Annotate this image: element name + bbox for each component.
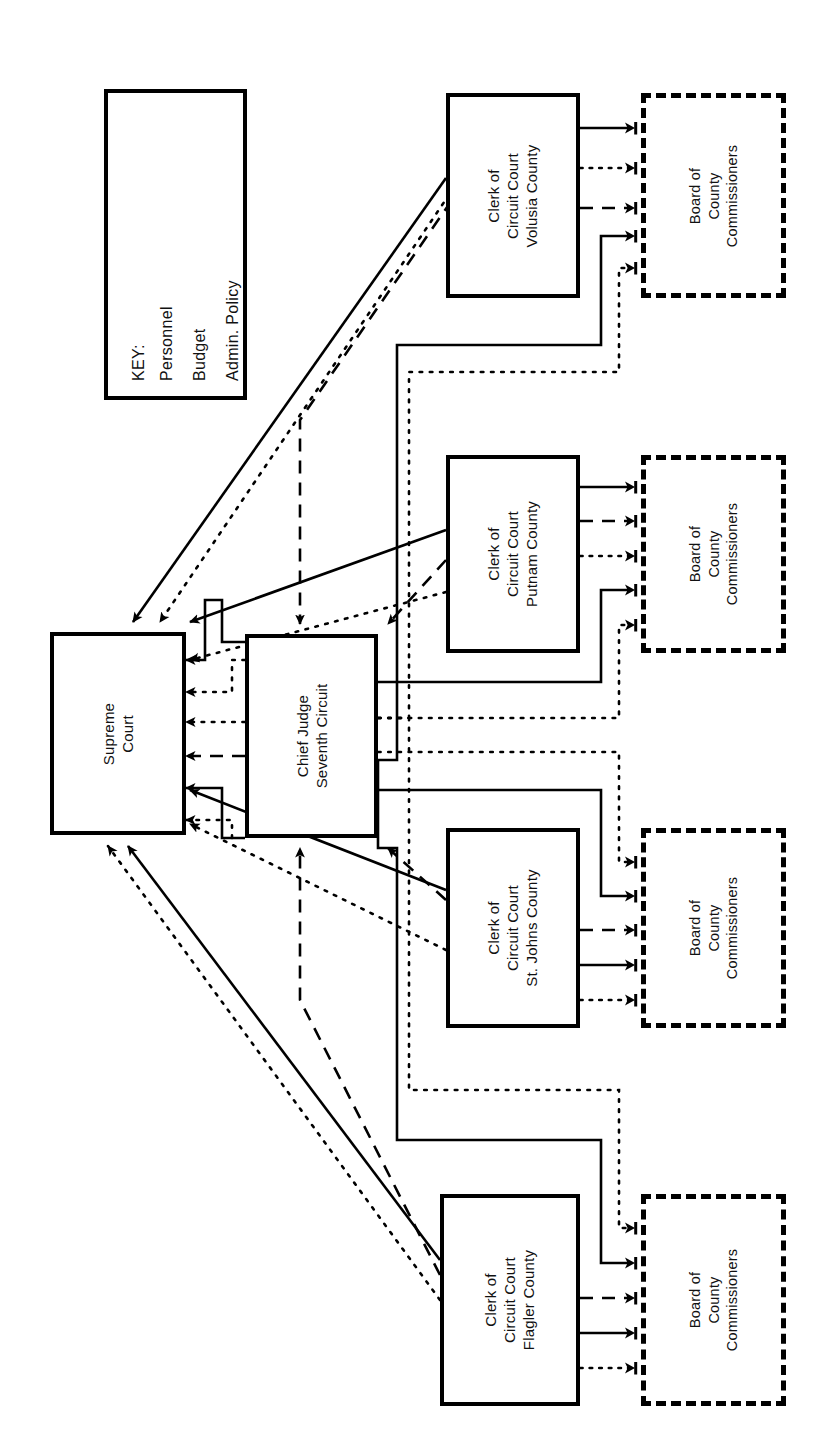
edge-chief-judge-supreme-dotted-c (186, 820, 232, 838)
node-clerk-flagler-label: Clerk of Circuit Court Flagler County (481, 1250, 539, 1350)
edge-clerk-putnam-supreme-solid (190, 530, 446, 622)
node-board-flagler-label: Board of County Commissioners (686, 1249, 742, 1352)
edge-chief-judge-supreme-dotted-a (186, 660, 245, 692)
node-board-putnam[interactable]: Board of County Commissioners (641, 455, 786, 653)
node-board-volusia-label: Board of County Commissioners (686, 144, 742, 247)
key-legend: KEY: Personnel Budget Admin. Policy (104, 89, 247, 400)
node-board-stjohns-label: Board of County Commissioners (686, 877, 742, 980)
edge-clerk-flagler-supreme-dotted (108, 846, 440, 1300)
node-supreme-court-label: Supreme Court (99, 702, 137, 764)
node-clerk-stjohns[interactable]: Clerk of Circuit Court St. Johns County (446, 828, 580, 1028)
edge-chief-judge-supreme-solid-b (186, 788, 245, 838)
node-chief-judge[interactable]: Chief Judge Seventh Circuit (245, 634, 378, 838)
key-label-admin-policy: Admin. Policy (224, 280, 242, 381)
edge-clerk-flagler-supreme-solid (128, 846, 440, 1260)
key-label-personnel: Personnel (158, 306, 176, 381)
node-clerk-putnam-label: Clerk of Circuit Court Putnam County (484, 501, 542, 607)
node-clerk-putnam[interactable]: Clerk of Circuit Court Putnam County (446, 455, 580, 653)
key-heading: KEY: (130, 344, 148, 381)
diagram-canvas: KEY: Personnel Budget Admin. Policy Cler… (0, 0, 827, 1449)
node-clerk-volusia[interactable]: Clerk of Circuit Court Volusia County (446, 93, 580, 298)
edge-clerk-volusia-chiefjudge-dashed (300, 200, 452, 624)
node-supreme-court[interactable]: Supreme Court (50, 632, 186, 835)
node-board-volusia[interactable]: Board of County Commissioners (641, 93, 786, 298)
node-clerk-volusia-label: Clerk of Circuit Court Volusia County (484, 144, 542, 247)
node-board-putnam-label: Board of County Commissioners (686, 503, 742, 606)
node-board-stjohns[interactable]: Board of County Commissioners (641, 828, 786, 1028)
node-clerk-stjohns-label: Clerk of Circuit Court St. Johns County (484, 869, 542, 986)
edge-clerk-stjohns-supreme-dotted (190, 824, 446, 950)
key-label-budget: Budget (191, 328, 209, 381)
node-chief-judge-label: Chief Judge Seventh Circuit (292, 684, 330, 789)
node-clerk-flagler[interactable]: Clerk of Circuit Court Flagler County (440, 1194, 580, 1406)
edge-chief-judge-supreme-solid-top (186, 600, 245, 660)
node-board-flagler[interactable]: Board of County Commissioners (641, 1194, 786, 1406)
